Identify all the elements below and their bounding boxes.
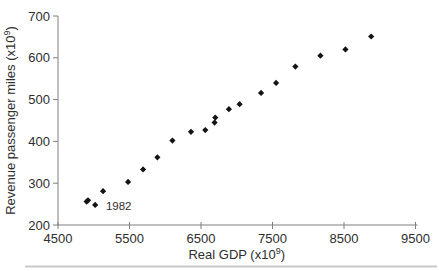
data-point [212, 114, 218, 120]
x-tick-label: 9500 [401, 231, 430, 246]
x-tick-label: 6500 [187, 231, 216, 246]
data-point [211, 119, 217, 125]
y-tick-label: 700 [28, 9, 50, 24]
data-point [317, 53, 323, 59]
x-axis-title: Real GDP (x109) [188, 246, 285, 262]
annotation-1982: 1982 [106, 200, 132, 212]
y-tick-label: 600 [28, 50, 50, 65]
data-point [368, 33, 374, 39]
y-tick-label: 500 [28, 92, 50, 107]
scatter-figure: 2003004005006007004500550065007500850095… [0, 0, 439, 271]
x-tick-label: 4500 [44, 231, 73, 246]
data-point [237, 101, 243, 107]
data-point [226, 106, 232, 112]
data-point [92, 202, 98, 208]
data-point [188, 129, 194, 135]
data-point [202, 127, 208, 133]
y-tick-label: 300 [28, 176, 50, 191]
data-point [258, 90, 264, 96]
data-point [273, 80, 279, 86]
data-point [125, 179, 131, 185]
data-point [154, 154, 160, 160]
data-point [292, 63, 298, 69]
data-point [169, 137, 175, 143]
x-tick-label: 8500 [330, 231, 359, 246]
data-point [342, 46, 348, 52]
data-point [140, 166, 146, 172]
y-axis-title: Revenue passenger miles (x109) [2, 26, 18, 215]
scatter-chart: 2003004005006007004500550065007500850095… [0, 0, 439, 271]
x-tick-label: 7500 [258, 231, 287, 246]
x-tick-label: 5500 [115, 231, 144, 246]
y-tick-label: 400 [28, 134, 50, 149]
data-point [100, 188, 106, 194]
